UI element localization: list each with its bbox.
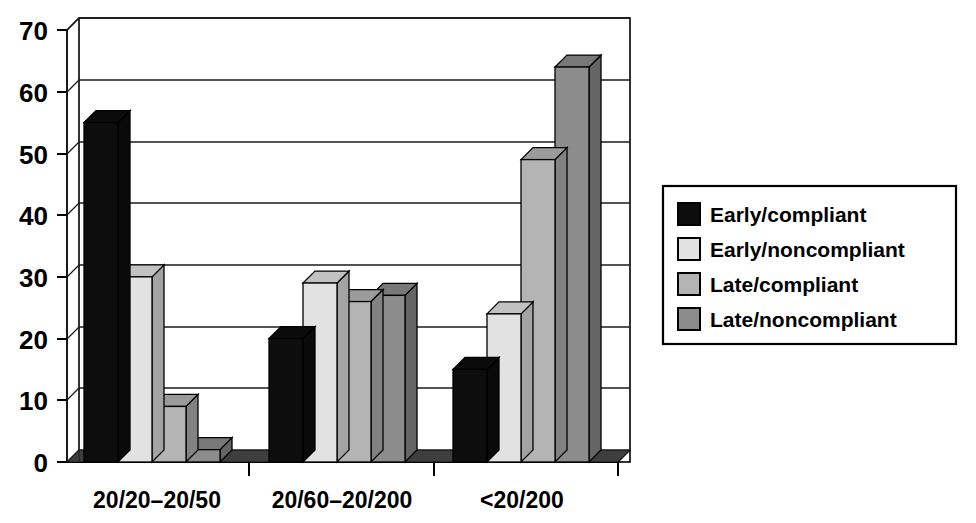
y-axis-labels: 70 60 50 40 30 20 10 0 [19,16,48,478]
legend-swatch [678,273,700,295]
legend-label: Early/compliant [710,203,866,226]
legend: Early/compliantEarly/noncompliantLate/co… [663,186,956,344]
x-axis-ticks [249,462,618,476]
bar [269,327,315,462]
legend-swatch [678,238,700,260]
legend-swatch [678,308,700,330]
legend-swatch [678,203,700,225]
y-tick-label: 0 [34,448,48,478]
y-tick-label: 70 [19,16,48,46]
y-tick-label: 10 [19,386,48,416]
y-tick-label: 60 [19,78,48,108]
y-tick-label: 40 [19,201,48,231]
legend-label: Late/noncompliant [710,308,897,331]
y-axis-ticks [57,30,67,462]
bar [84,111,130,462]
y-tick-label: 20 [19,325,48,355]
legend-label: Late/compliant [710,273,858,296]
x-tick-label: 20/60–20/200 [272,487,413,513]
y-tick-label: 30 [19,263,48,293]
y-tick-label: 50 [19,140,48,170]
chart-canvas: 70 60 50 40 30 20 10 0 20/20–20/50 20/60… [0,0,976,523]
x-tick-label: <20/200 [480,487,564,513]
bar [453,357,499,462]
legend-label: Early/noncompliant [710,238,905,261]
x-axis-labels: 20/20–20/50 20/60–20/200 <20/200 [93,487,564,513]
x-tick-label: 20/20–20/50 [93,487,221,513]
bar-chart: 70 60 50 40 30 20 10 0 20/20–20/50 20/60… [0,0,976,523]
